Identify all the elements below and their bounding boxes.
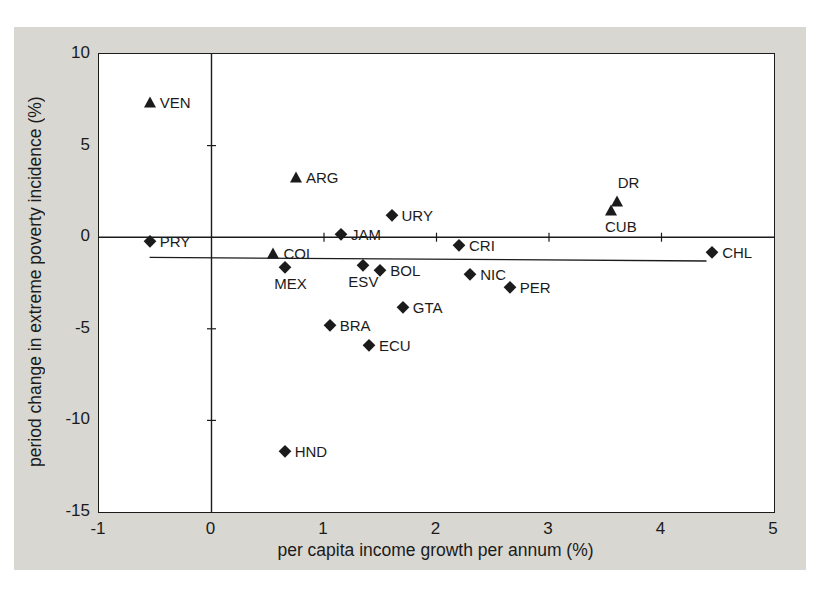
triangle-marker-arg [290,171,302,182]
y-axis-title: period change in extreme poverty inciden… [22,53,48,511]
y-tick-label: -5 [24,318,90,338]
triangle-marker-cub [605,204,617,215]
point-label-pry: PRY [160,232,191,249]
x-tick-label: 1 [298,519,348,539]
x-tick-label: 0 [186,519,236,539]
y-tick-label: 0 [24,226,90,246]
point-label-esv: ESV [348,273,378,290]
point-label-jam: JAM [351,226,381,243]
figure-page: { "figure": { "panel_color": "#d8d7d2", … [0,0,816,594]
figure-panel: period change in extreme poverty inciden… [14,27,806,570]
x-tick-label: 5 [748,519,798,539]
plot-area: VENARGPRYJAMURYCOLMEXESVBOLCRINICPERGTAB… [98,53,775,513]
x-tick-label: -1 [73,519,123,539]
point-label-ecu: ECU [379,337,411,354]
x-axis-title: per capita income growth per annum (%) [98,540,773,561]
y-tick-label: 10 [24,43,90,63]
point-label-chl: CHL [722,243,752,260]
y-tick-label: -15 [24,501,90,521]
y-tick-label: 5 [24,135,90,155]
point-label-hnd: HND [295,442,328,459]
point-label-col: COL [283,244,314,261]
point-label-arg: ARG [306,168,339,185]
triangle-marker-ven [144,96,156,107]
point-label-bra: BRA [340,317,371,334]
axis-lines-layer [99,54,774,512]
point-label-bol: BOL [390,262,420,279]
point-label-dr: DR [618,174,640,191]
point-label-ven: VEN [160,93,191,110]
trend-line [150,257,707,261]
point-label-per: PER [520,278,551,295]
point-label-ury: URY [402,207,433,224]
point-label-gta: GTA [413,298,443,315]
x-tick-label: 4 [636,519,686,539]
point-label-nic: NIC [480,265,506,282]
x-tick-label: 3 [523,519,573,539]
point-label-cri: CRI [469,236,495,253]
y-tick-label: -10 [24,409,90,429]
point-label-mex: MEX [274,275,307,292]
x-tick-label: 2 [411,519,461,539]
triangle-marker-col [267,247,279,258]
point-label-cub: CUB [605,218,637,235]
